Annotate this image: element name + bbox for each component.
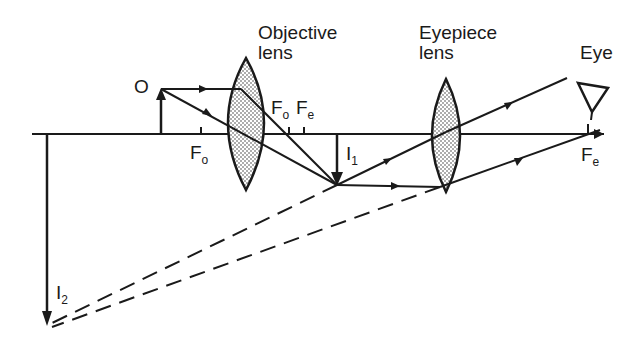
eye-icon (591, 112, 592, 120)
object-label: O (134, 77, 149, 97)
ray-arrow-icon (391, 182, 400, 190)
fo-right-label: Fo (271, 98, 289, 120)
eyepiece-lens (432, 79, 460, 192)
eye-label: Eye (580, 43, 613, 63)
virtual-ray-lower (52, 187, 440, 327)
ray-arrow-icon (504, 102, 513, 110)
ray-to-eyepiece-lower (337, 185, 440, 187)
eyepiece-lens-label: Eyepiecelens (419, 23, 497, 63)
eye-icon (578, 83, 608, 112)
ray-arrow-icon (514, 158, 523, 166)
objective-lens (228, 58, 264, 190)
ray-arrow-icon (383, 158, 392, 165)
fo-left-label: Fo (190, 143, 208, 165)
fe-right-label: Fe (581, 145, 599, 167)
image2-arrowhead-icon (42, 311, 52, 326)
virtual-ray-upper (50, 185, 337, 324)
image2-label: I2 (56, 283, 68, 305)
fe-mid-label: Fe (296, 98, 314, 120)
objective-lens-label: Objectivelens (258, 23, 337, 63)
ray-arrow-icon (202, 108, 212, 116)
image1-label: I1 (346, 144, 358, 166)
compound-microscope-diagram: Objectivelens Eyepiecelens Eye O Fo Fo F… (0, 0, 637, 343)
ray-arrow-icon (199, 85, 208, 93)
